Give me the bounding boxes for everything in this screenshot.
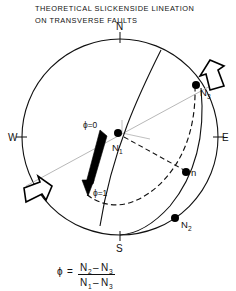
point-label-N2: N: [181, 219, 188, 230]
equation-numerator-minus: –: [93, 262, 99, 273]
equation-denominator-minus: –: [93, 277, 99, 288]
point-marker-N3: [192, 81, 200, 89]
equation-denominator-a-sub: 1: [88, 283, 92, 290]
point-label-N1: N: [112, 142, 119, 153]
west-label: W: [8, 132, 18, 143]
figure-title-line1: THEORETICAL SLICKENSIDE LINEATION: [35, 4, 194, 13]
equation-numerator-b: N: [101, 262, 108, 273]
equation-numerator-a: N: [80, 262, 87, 273]
east-label: E: [222, 132, 229, 143]
slickenside-lineation-shaft: [86, 130, 107, 184]
equation-equals: =: [67, 266, 73, 277]
point-sublabel-N3: 3: [207, 93, 211, 100]
point-marker-N2: [171, 214, 179, 222]
stereonet-figure: THEORETICAL SLICKENSIDE LINEATION ON TRA…: [0, 0, 236, 291]
point-marker-N1: [114, 129, 122, 137]
point-sublabel-N1: 1: [119, 148, 123, 155]
point-sublabel-N2: 2: [188, 225, 192, 232]
lower-great-circle: [120, 88, 202, 235]
equation-phi: ϕ: [57, 266, 63, 277]
fault-plane-great-circle: [100, 50, 161, 226]
phi-zero-label: ϕ=0: [83, 120, 98, 130]
point-marker-n: [182, 168, 190, 176]
n1-to-n-dashed-chord: [124, 137, 184, 170]
south-label: S: [116, 243, 123, 254]
equation-denominator-b-sub: 3: [109, 283, 113, 290]
phi-one-label: ϕ=1: [93, 188, 108, 198]
primitive-circle: [22, 39, 218, 235]
point-label-N3: N: [200, 87, 207, 98]
stereonet-svg: THEORETICAL SLICKENSIDE LINEATION ON TRA…: [0, 0, 236, 291]
point-label-n: n: [191, 167, 196, 178]
north-label: N: [116, 21, 123, 32]
equation-denominator-b: N: [101, 277, 108, 288]
equation-denominator-a: N: [80, 277, 87, 288]
